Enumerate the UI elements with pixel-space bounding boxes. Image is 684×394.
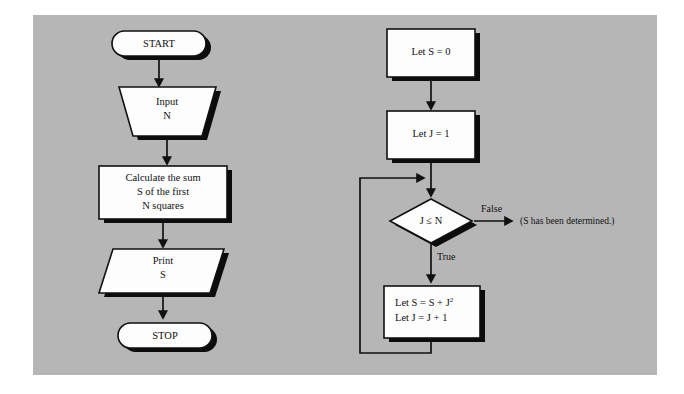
node-accumulate-label-line1: Let S = S + J2	[395, 296, 454, 309]
node-start-label: START	[143, 38, 175, 49]
node-let-j-one[interactable]: Let J = 1	[387, 111, 480, 163]
annotation-s-determined: (S has been determined.)	[520, 216, 614, 227]
node-test[interactable]: J ≤ N	[390, 199, 477, 247]
node-let-j-one-label: Let J = 1	[412, 128, 449, 139]
node-accumulate-label-line2: Let J = J + 1	[395, 312, 447, 323]
node-accumulate-line1-base: Let S = S + J	[395, 297, 450, 308]
node-calculate-label-line2: S of the first	[137, 186, 189, 197]
flowchart-diagram: START Input N Calculate the sum S of the…	[0, 0, 684, 394]
node-stop[interactable]: STOP	[118, 323, 217, 352]
node-input-label-line1: Input	[156, 96, 178, 107]
node-print[interactable]: Print S	[99, 249, 229, 297]
node-calculate[interactable]: Calculate the sum S of the first N squar…	[99, 166, 232, 223]
node-accumulate-line1-exponent: 2	[450, 296, 454, 304]
node-start[interactable]: START	[112, 31, 211, 60]
node-calculate-label-line1: Calculate the sum	[125, 172, 200, 183]
node-accumulate[interactable]: Let S = S + J2 Let J = J + 1	[384, 286, 485, 342]
edge-label-true: True	[437, 251, 456, 262]
node-print-label-line1: Print	[153, 255, 174, 266]
edge-label-false: False	[481, 203, 503, 214]
node-test-label: J ≤ N	[420, 215, 443, 226]
flowchart-figure: START Input N Calculate the sum S of the…	[0, 0, 684, 394]
node-input-label-line2: N	[163, 110, 171, 121]
node-input[interactable]: Input N	[119, 87, 221, 140]
node-calculate-label-line3: N squares	[142, 200, 184, 211]
node-let-s-zero[interactable]: Let S = 0	[387, 29, 480, 81]
node-print-label-line2: S	[160, 269, 166, 280]
node-let-s-zero-label: Let S = 0	[412, 46, 451, 57]
node-stop-label: STOP	[152, 330, 178, 341]
